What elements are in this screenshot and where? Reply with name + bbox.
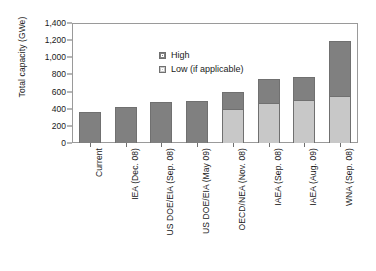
y-axis-tick-label: 0: [61, 138, 66, 148]
y-axis-tick-label: 1,400: [45, 18, 66, 28]
bar-column: [150, 102, 172, 143]
x-axis-tick-mark: [233, 143, 234, 147]
bar-segment-high: [186, 101, 208, 143]
y-axis-tick-label: 800: [52, 69, 66, 79]
bar-segment-high: [258, 79, 280, 103]
x-axis-tick-mark: [197, 143, 198, 147]
bar-column: [222, 92, 244, 143]
bar-segment-low: [329, 96, 351, 143]
bar-column: [293, 77, 315, 143]
bar-segment-high: [150, 102, 172, 143]
x-axis-tick-label: US DOE/EIA (Sep. 08): [165, 148, 175, 236]
y-axis-tick-label: 600: [52, 87, 66, 97]
x-axis-tick-label: WNA (Sep. 08): [344, 148, 354, 206]
bar-segment-low: [293, 100, 315, 143]
x-axis-tick-label: IAEA (Aug. 09): [308, 148, 318, 206]
bar-segment-high: [222, 92, 244, 109]
x-axis-tick-label: IEA (Dec. 08): [130, 148, 140, 200]
x-axis-tick-label: IAEA (Sep. 08): [273, 148, 283, 206]
x-axis-tick-label: Current: [94, 148, 104, 177]
bar-segment-low: [222, 109, 244, 143]
x-axis-tick-mark: [126, 143, 127, 147]
bar-segment-high: [79, 112, 101, 143]
bar-segment-high: [115, 107, 137, 143]
capacity-bar-chart: Total capacity (GWe) 02004006008001,0001…: [0, 0, 376, 271]
y-axis-tick-label: 1,000: [45, 52, 66, 62]
x-axis-tick-mark: [161, 143, 162, 147]
bar-segment-high: [329, 41, 351, 96]
bar-column: [329, 41, 351, 143]
bar-column: [258, 79, 280, 143]
x-axis-tick-mark: [340, 143, 341, 147]
y-axis-tick-label: 200: [52, 121, 66, 131]
x-axis-tick-label: US DOE/EIA (May 09): [201, 148, 211, 234]
y-axis-tick-labels: 02004006008001,0001,2001,400: [0, 0, 72, 166]
bar-column: [115, 107, 137, 143]
bar-segment-low: [258, 103, 280, 143]
bar-column: [79, 112, 101, 143]
x-axis-tick-label: OECD/NEA (Nov. 08): [237, 148, 247, 230]
bar-column: [186, 101, 208, 143]
bar-series-container: [72, 23, 358, 143]
bar-segment-high: [293, 77, 315, 101]
x-axis-tick-mark: [304, 143, 305, 147]
x-axis-tick-mark: [269, 143, 270, 147]
y-axis-tick-label: 1,200: [45, 35, 66, 45]
y-axis-tick-label: 400: [52, 104, 66, 114]
x-axis-category-labels: CurrentIEA (Dec. 08)US DOE/EIA (Sep. 08)…: [72, 148, 358, 268]
x-axis-tick-mark: [90, 143, 91, 147]
